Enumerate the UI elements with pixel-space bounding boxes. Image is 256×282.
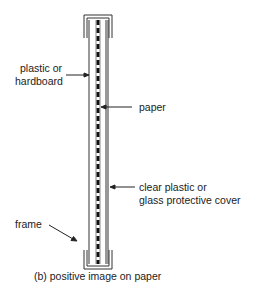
cover-label: clear plastic or glass protective cover [139, 181, 241, 206]
frame-label: frame [15, 218, 42, 231]
paper-label: paper [139, 101, 166, 114]
cover-label-line1: clear plastic or [139, 181, 241, 194]
pointer-arrows [49, 73, 135, 241]
backing-label: plastic or hardboard [15, 62, 62, 87]
framed-print-cross-section-diagram: plastic or hardboard paper clear plastic… [0, 0, 256, 282]
backing-label-line2: hardboard [15, 75, 62, 88]
protective-cover [106, 20, 108, 264]
backing-label-line1: plastic or [15, 62, 62, 75]
paper-layer [96, 20, 100, 264]
cross-section-drawing [0, 0, 256, 282]
cover-label-line2: glass protective cover [139, 194, 241, 207]
figure-caption: (b) positive image on paper [34, 270, 161, 282]
